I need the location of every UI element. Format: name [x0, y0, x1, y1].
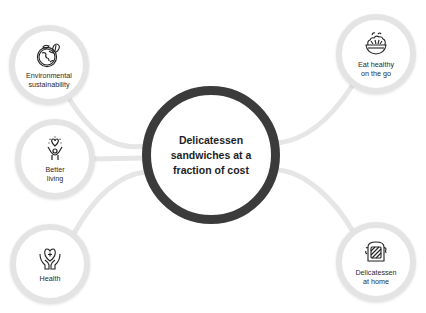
node-environmental-sustainability: Environmental sustainability: [9, 25, 89, 105]
raised-hands-heart-icon: [42, 136, 68, 162]
node-label: Better living: [45, 165, 64, 183]
connector-deli-home: [278, 170, 352, 230]
node-better-living: Better living: [15, 119, 95, 199]
toasted-sandwich-icon: [363, 239, 389, 265]
connector-better-living: [95, 158, 143, 159]
node-label: Eat healthy on the go: [358, 60, 394, 78]
node-label: Environmental sustainability: [26, 71, 72, 89]
node-label: Health: [40, 274, 61, 283]
central-topic: Delicatessen sandwiches at a fraction of…: [142, 86, 280, 224]
globe-leaf-icon: [36, 42, 62, 68]
node-label: Delicatessen at home: [355, 268, 396, 286]
node-eat-healthy-on-the-go: Eat healthy on the go: [336, 14, 416, 94]
connector-eat-healthy: [278, 86, 352, 143]
node-health: Health: [10, 224, 90, 304]
mind-map-diagram: Delicatessen sandwiches at a fraction of…: [0, 0, 426, 313]
central-topic-title: Delicatessen sandwiches at a fraction of…: [156, 133, 266, 178]
salad-bowl-icon: [363, 31, 389, 57]
hands-heart-cross-icon: [37, 245, 63, 271]
node-delicatessen-at-home: Delicatessen at home: [336, 222, 416, 302]
